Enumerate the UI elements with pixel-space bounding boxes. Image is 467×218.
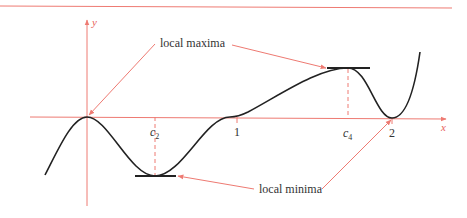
tick-label-1: 1: [234, 125, 240, 139]
y-axis-label: y: [91, 16, 97, 28]
tick-label-c4: c4: [343, 126, 352, 142]
tick-label-c2: c2: [150, 125, 159, 141]
maxima-arrow-1: [89, 44, 155, 115]
maxima-arrow-2: [232, 45, 326, 68]
local-extrema-diagram: y x c2 1 c4 2 local maxima local minima: [0, 0, 467, 218]
x-axis-label: x: [440, 121, 446, 133]
minima-arrow-1: [178, 176, 254, 189]
minima-arrow-2: [322, 120, 391, 189]
function-curve: [45, 52, 420, 176]
local-maxima-label: local maxima: [160, 36, 226, 50]
top-rule: [0, 6, 452, 8]
tick-label-2: 2: [389, 126, 395, 140]
local-minima-label: local minima: [259, 182, 323, 196]
